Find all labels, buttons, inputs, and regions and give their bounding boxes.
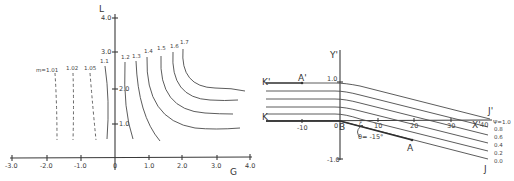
curve-m101 xyxy=(55,73,57,140)
x-prime-tick-label: -10 xyxy=(297,124,308,132)
l-tick-label: 2.0 xyxy=(119,85,129,93)
g-tick-label: -2.0 xyxy=(40,162,53,170)
g-tick-label: 1.0 xyxy=(144,162,154,170)
label-k-prime: K' xyxy=(262,77,270,87)
curve-m11 xyxy=(105,66,108,139)
curve-m105 xyxy=(90,73,96,140)
curve-label-102: 1.02 xyxy=(66,65,78,71)
curve-label-16: 1.6 xyxy=(170,43,179,49)
psi-label-06: 0.6 xyxy=(494,134,503,140)
psi-label-02: 0.2 xyxy=(494,150,503,156)
left-plot: -3.0 -2.0 -1.0 0 1.0 2.0 3.0 4.0 G 4.0 3… xyxy=(5,4,255,177)
l-tick-label: 4.0 xyxy=(101,14,111,22)
l-tick-label: 3.0 xyxy=(101,48,111,56)
curve-label-17: 1.7 xyxy=(180,39,189,45)
label-b: B xyxy=(339,122,345,132)
y-prime-tick-label: -1.0 xyxy=(327,156,340,164)
curve-label-11: 1.1 xyxy=(100,58,109,64)
g-tick-label: 4.0 xyxy=(245,162,255,170)
l-axis-label: L xyxy=(99,4,104,14)
curve-m15 xyxy=(161,56,233,114)
x-prime-tick-label: 0 xyxy=(334,122,338,130)
g-tick-label: 0 xyxy=(113,162,117,170)
psi-label-08: 0.8 xyxy=(494,126,503,132)
curve-m102 xyxy=(73,73,74,140)
y-prime-axis-label: Y' xyxy=(329,50,338,60)
g-tick-label: 2.0 xyxy=(177,162,187,170)
g-axis xyxy=(10,157,252,158)
label-a: A xyxy=(407,143,414,153)
label-j-prime: J' xyxy=(487,106,493,116)
curve-label-13: 1.3 xyxy=(132,53,141,59)
curve-label-105: 1.05 xyxy=(84,65,97,71)
l-tick-label: 1.0 xyxy=(119,120,129,128)
figure: -3.0 -2.0 -1.0 0 1.0 2.0 3.0 4.0 G 4.0 3… xyxy=(0,0,514,181)
curve-label-m101: m=1.01 xyxy=(36,67,58,73)
curve-label-15: 1.5 xyxy=(157,45,166,51)
curve-m17 xyxy=(183,49,245,91)
y-prime-tick-label: 1.0 xyxy=(327,75,337,83)
psi-label-10: Ψ=1.0 xyxy=(493,119,511,125)
point-a xyxy=(411,139,414,142)
psi-label-04: 0.4 xyxy=(494,142,503,148)
curve-m13 xyxy=(136,61,160,141)
g-tick-label: -1.0 xyxy=(74,162,87,170)
g-tick-label: -3.0 xyxy=(5,162,18,170)
right-plot: Y' 1.0 -1.0 -10 0 10 20 30 40 X' xyxy=(262,50,511,174)
label-zeta: ζ xyxy=(359,121,362,128)
curve-label-12: 1.2 xyxy=(121,54,130,60)
x-prime-tick-label: 20 xyxy=(410,122,418,130)
curve-label-14: 1.4 xyxy=(144,48,153,54)
label-a-prime: A' xyxy=(298,73,307,83)
g-tick-label: 3.0 xyxy=(211,162,221,170)
psi-label-00: 0.0 xyxy=(494,158,503,164)
g-axis-label: G xyxy=(230,167,237,177)
angle-label: θ= -15° xyxy=(358,133,383,141)
label-j: J xyxy=(483,164,487,174)
